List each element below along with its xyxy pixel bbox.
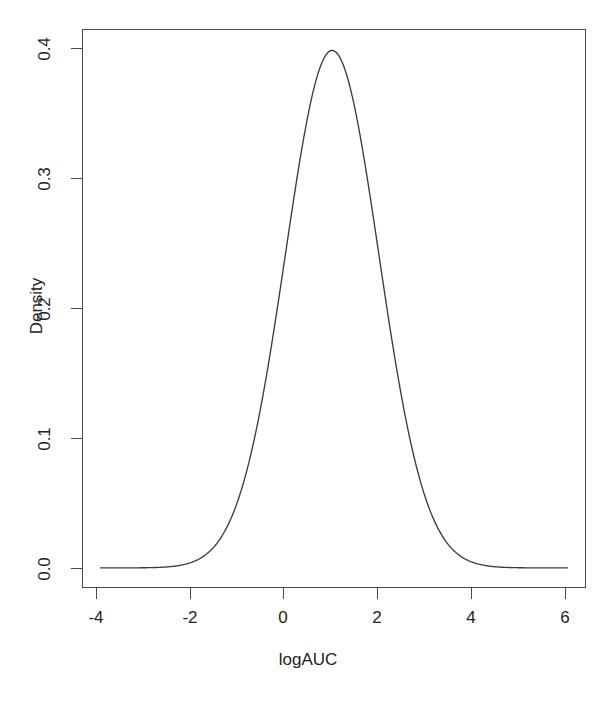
x-tick-label-0: 0 bbox=[253, 608, 313, 628]
y-tick-label-0.3: 0.3 bbox=[35, 149, 55, 209]
y-tick-0 bbox=[71, 568, 82, 569]
x-tick-2 bbox=[283, 588, 284, 599]
y-tick-label-0.0: 0.0 bbox=[35, 539, 55, 599]
density-plot-figure: -4 -2 0 2 4 6 0.0 0.1 0.2 0.3 0.4 logAUC… bbox=[0, 0, 616, 709]
y-tick-3 bbox=[71, 178, 82, 179]
x-tick-1 bbox=[190, 588, 191, 599]
x-axis-title: logAUC bbox=[0, 650, 616, 670]
x-tick-label--4: -4 bbox=[66, 608, 126, 628]
x-tick-label--2: -2 bbox=[160, 608, 220, 628]
density-curve-path bbox=[101, 50, 568, 567]
x-tick-3 bbox=[377, 588, 378, 599]
density-curve bbox=[82, 29, 586, 588]
y-tick-4 bbox=[71, 48, 82, 49]
x-tick-4 bbox=[471, 588, 472, 599]
x-tick-label-6: 6 bbox=[535, 608, 595, 628]
y-tick-1 bbox=[71, 438, 82, 439]
y-tick-label-0.1: 0.1 bbox=[35, 409, 55, 469]
y-axis-title: Density bbox=[27, 246, 47, 366]
x-tick-5 bbox=[565, 588, 566, 599]
y-tick-label-0.4: 0.4 bbox=[35, 19, 55, 79]
x-tick-0 bbox=[96, 588, 97, 599]
x-tick-label-2: 2 bbox=[347, 608, 407, 628]
x-tick-label-4: 4 bbox=[441, 608, 501, 628]
y-tick-2 bbox=[71, 308, 82, 309]
